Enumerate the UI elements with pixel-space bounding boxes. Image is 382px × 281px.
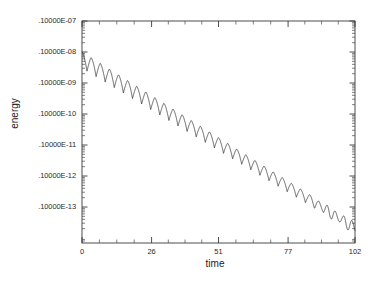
y-tick-label: .10000E-09: [14, 78, 76, 87]
y-tick-label: .10000E-10: [14, 109, 76, 118]
x-tick-label: 102: [335, 247, 375, 256]
y-tick-label: .10000E-08: [14, 47, 76, 56]
x-tick-label: 0: [62, 247, 102, 256]
chart-figure: .10000E-07.10000E-08.10000E-09.10000E-10…: [0, 0, 382, 281]
x-tick-label: 51: [199, 247, 239, 256]
y-axis-title: energy: [9, 86, 20, 142]
plot-frame: [82, 21, 355, 243]
y-tick-label: .10000E-13: [14, 202, 76, 211]
y-tick-label: .10000E-07: [14, 16, 76, 25]
x-axis-title: time: [150, 258, 280, 269]
x-tick-label: 26: [132, 247, 172, 256]
y-tick-label: .10000E-12: [14, 171, 76, 180]
y-tick-label: .10000E-11: [14, 140, 76, 149]
x-tick-label: 77: [268, 247, 308, 256]
